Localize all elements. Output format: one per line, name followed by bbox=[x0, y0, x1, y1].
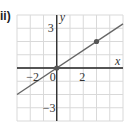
x-tick-label: 0 bbox=[50, 70, 56, 84]
coordinate-plot: −2023−3xy bbox=[0, 0, 127, 131]
y-tick-label: 3 bbox=[48, 21, 54, 35]
y-axis-label: y bbox=[59, 10, 66, 24]
x-axis-label: x bbox=[114, 54, 121, 68]
y-tick-label: −3 bbox=[43, 101, 56, 115]
x-tick-label: −2 bbox=[26, 70, 39, 84]
x-tick-label: 2 bbox=[79, 70, 85, 84]
data-point bbox=[94, 39, 99, 44]
